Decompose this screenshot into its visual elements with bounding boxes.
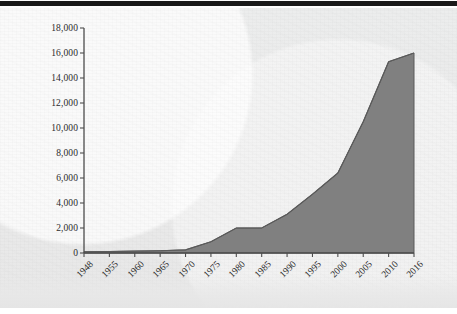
chart-page: 02,0004,0006,0008,00010,00012,00014,0001… <box>0 0 457 314</box>
area-chart: 02,0004,0006,0008,00010,00012,00014,0001… <box>0 0 457 314</box>
y-axis-tick-label: 4,000 <box>56 198 78 208</box>
y-axis-tick-label: 16,000 <box>51 48 78 58</box>
y-axis-tick-label: 8,000 <box>56 148 78 158</box>
y-axis-tick-label: 18,000 <box>51 23 78 33</box>
y-axis-tick-label: 14,000 <box>51 73 78 83</box>
area-series-group <box>84 53 414 253</box>
y-axis-tick-label: 0 <box>73 248 78 258</box>
y-axis-tick-label: 10,000 <box>51 123 78 133</box>
area-series-fill <box>84 53 414 253</box>
y-axis-tick-label: 6,000 <box>56 173 78 183</box>
y-axis-tick-label: 2,000 <box>56 223 78 233</box>
y-axis-tick-label: 12,000 <box>51 98 78 108</box>
